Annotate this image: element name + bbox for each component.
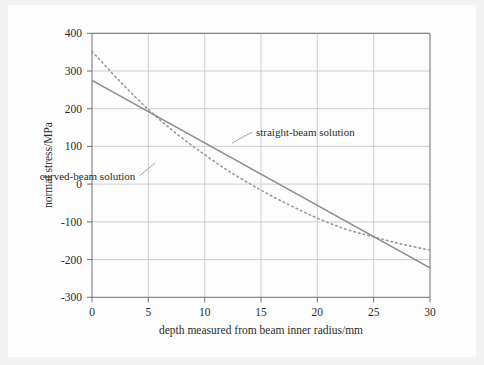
vertical-gridlines (148, 33, 373, 297)
y-axis-tick-labels: 400 300 200 100 0 -100 -200 -300 (61, 27, 82, 303)
x-tick-label: 0 (89, 306, 95, 318)
y-tick-label: 300 (65, 65, 83, 77)
x-tick-label: 15 (255, 306, 267, 318)
y-tick-label: 400 (65, 27, 83, 39)
chart-canvas: 400 300 200 100 0 -100 -200 -300 0 5 10 … (8, 5, 476, 357)
y-tick-label: -200 (61, 254, 82, 266)
y-axis-title: normal stress/MPa (42, 122, 54, 208)
y-tick-label: 100 (65, 140, 83, 152)
figure-panel: 400 300 200 100 0 -100 -200 -300 0 5 10 … (8, 5, 476, 357)
x-tick-label: 10 (199, 306, 211, 318)
y-tick-label: -300 (61, 291, 82, 303)
annotation-label-straight-beam: straight-beam solution (256, 126, 355, 138)
x-tick-label: 20 (312, 306, 324, 318)
x-axis-tick-labels: 0 5 10 15 20 25 30 (89, 306, 436, 318)
x-axis-ticks (92, 297, 430, 302)
x-tick-label: 5 (145, 306, 151, 318)
annotation-curved-beam: curved-beam solution (40, 163, 156, 182)
x-axis-title: depth measured from beam inner radius/mm (159, 324, 363, 337)
y-tick-label: 200 (65, 103, 83, 115)
y-tick-label: -100 (61, 216, 82, 228)
x-tick-label: 30 (424, 306, 436, 318)
annotation-straight-beam: straight-beam solution (232, 126, 355, 143)
y-axis-ticks (87, 33, 92, 297)
x-tick-label: 25 (368, 306, 380, 318)
annotation-label-curved-beam: curved-beam solution (40, 170, 136, 182)
